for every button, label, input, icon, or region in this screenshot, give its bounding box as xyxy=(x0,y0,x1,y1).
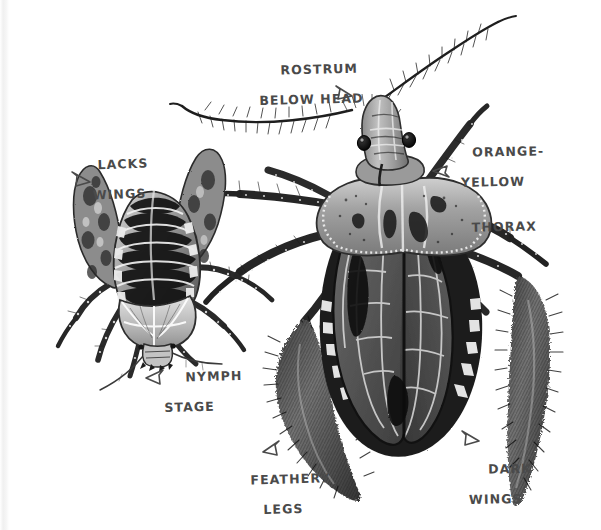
arrow-dark-wings xyxy=(462,431,479,445)
label-nymph-stage-line2: STAGE xyxy=(164,398,243,415)
label-nymph-stage: NYMPH STAGE xyxy=(163,353,244,445)
label-dark-wings: DARK WINGS xyxy=(466,446,533,530)
label-dark-wings-line2: WINGS xyxy=(467,491,533,507)
adult-eye-right xyxy=(402,133,415,148)
label-feathery-legs-line2: LEGS xyxy=(229,500,331,518)
adult-eye-left xyxy=(357,136,370,151)
label-thorax: ORANGE- YELLOW THORAX xyxy=(450,128,546,265)
adult-head xyxy=(356,96,424,186)
label-lacks-wings: LACKS WINGS xyxy=(75,140,151,232)
arrow-feathery-legs xyxy=(263,441,279,455)
label-dark-wings-line1: DARK xyxy=(488,461,532,477)
label-rostrum: ROSTRUM BELOW HEAD xyxy=(258,45,365,138)
label-nymph-stage-line1: NYMPH xyxy=(185,368,242,384)
label-lacks-wings-line1: LACKS xyxy=(97,155,149,172)
label-feathery-legs-line1: FEATHERY xyxy=(250,470,330,487)
label-rostrum-line1: ROSTRUM xyxy=(280,61,358,78)
illustration-page: ROSTRUM BELOW HEAD ORANGE- YELLOW THORAX… xyxy=(0,0,601,530)
label-lacks-wings-line2: WINGS xyxy=(77,185,150,203)
arrow-nymph-stage xyxy=(146,370,163,384)
label-thorax-line1: ORANGE- xyxy=(472,143,544,159)
label-thorax-line3: THORAX xyxy=(452,218,546,235)
label-feathery-legs: FEATHERY LEGS xyxy=(228,455,332,530)
label-thorax-line2: YELLOW xyxy=(451,173,545,190)
label-rostrum-line2: BELOW HEAD xyxy=(259,90,364,108)
